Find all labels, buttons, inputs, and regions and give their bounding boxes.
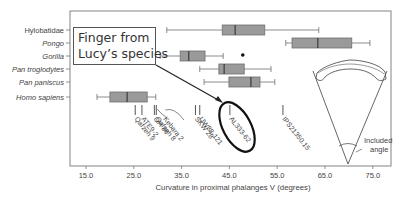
y-axis-labels: HylobatidaePongoGorillaPan troglodytesPa… — [12, 26, 70, 102]
svg-text:IPS21350.15: IPS21350.15 — [281, 115, 312, 151]
box-homo-sapiens — [97, 92, 156, 102]
x-axis-label: Curvature in proximal phalanges V (degre… — [155, 183, 311, 192]
box-pongo — [286, 38, 370, 48]
x-tick-label: 25.0 — [126, 171, 141, 180]
box-hylobatidae — [167, 25, 319, 35]
x-tick-label: 35.0 — [174, 171, 189, 180]
y-label-pan-troglodytes: Pan troglodytes — [12, 65, 64, 74]
angle-label: angle — [370, 145, 388, 154]
fossil-ips21350-15: IPS21350.15 — [281, 105, 312, 152]
fossil-al333-62: AL333-62 — [228, 105, 252, 144]
phalanx-shape-icon — [316, 60, 386, 81]
y-label-hylobatidae: Hylobatidae — [24, 26, 64, 35]
included-angle-diagram: Included angle — [313, 60, 392, 164]
x-tick-label: 65.0 — [318, 171, 333, 180]
arrowhead-icon — [215, 96, 223, 103]
x-tick-label: 15.0 — [79, 171, 94, 180]
x-tick-label: 45.0 — [222, 171, 237, 180]
box-gorilla — [160, 51, 244, 61]
y-label-pongo: Pongo — [42, 39, 64, 48]
outlier-point — [241, 53, 245, 57]
x-tick-label: 75.0 — [365, 171, 380, 180]
box-pan-troglodytes — [200, 64, 271, 74]
box-plot-figure: HylobatidaePongoGorillaPan troglodytesPa… — [0, 0, 402, 201]
callout-arrow — [156, 65, 220, 101]
included-label: Included — [364, 136, 392, 145]
y-label-homo-sapiens: Homo sapiens — [16, 93, 64, 102]
y-label-gorilla: Gorilla — [42, 52, 64, 61]
box-pan-paniscus — [204, 77, 275, 87]
x-axis: 15.025.035.045.055.065.075.0Curvature in… — [79, 166, 380, 192]
lucy-callout-box: Finger from Lucy’s species — [73, 27, 156, 65]
x-tick-label: 55.0 — [270, 171, 285, 180]
y-label-pan-paniscus: Pan paniscus — [19, 78, 64, 87]
callout-line-1: Finger from — [78, 30, 151, 46]
chart-canvas: HylobatidaePongoGorillaPan troglodytesPa… — [0, 0, 402, 201]
callout-line-2: Lucy’s species — [78, 46, 151, 62]
